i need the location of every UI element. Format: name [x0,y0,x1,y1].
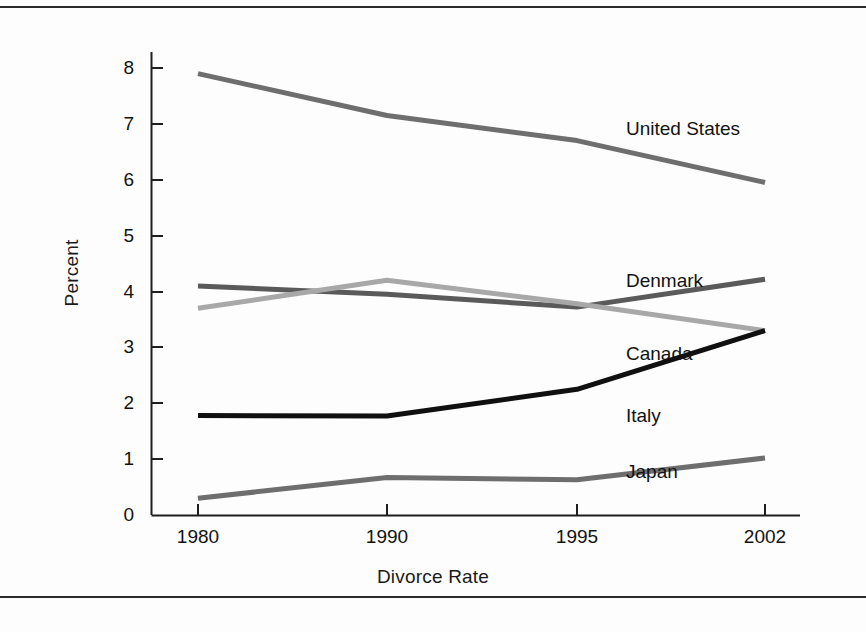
series-label-denmark: Denmark [626,271,703,290]
series-label-japan: Japan [626,462,678,481]
y-tick-label: 4 [100,282,134,301]
y-tick-label: 8 [100,58,134,77]
y-tick-label: 7 [100,114,134,133]
series-label-canada: Canada [626,344,693,363]
y-axis-title: Percent [61,193,83,353]
y-tick-label: 0 [100,505,134,524]
x-tick-label: 2002 [720,527,810,546]
x-axis-title: Divorce Rate [0,566,866,588]
y-tick-label: 3 [100,337,134,356]
series-line-japan[interactable] [198,458,765,498]
y-tick-label: 2 [100,393,134,412]
figure-container: Percent Divorce Rate 876543210 198019901… [0,0,866,632]
x-tick-label: 1980 [153,527,243,546]
series-label-italy: Italy [626,406,661,425]
y-tick-label: 5 [100,226,134,245]
x-tick-label: 1995 [532,527,622,546]
x-tick-label: 1990 [342,527,432,546]
line-chart: Percent Divorce Rate 876543210 198019901… [0,0,866,632]
y-tick-label: 6 [100,170,134,189]
y-tick-label: 1 [100,449,134,468]
series-label-united-states: United States [626,119,740,138]
